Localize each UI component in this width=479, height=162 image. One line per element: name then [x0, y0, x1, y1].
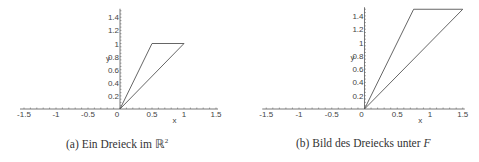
- triangle-plot-a: -1.5-1-0.500.511.50.20.40.60.811.21.4xy: [0, 0, 240, 130]
- plot-panel-a: -1.5-1-0.500.511.50.20.40.60.811.21.4xy: [0, 0, 240, 130]
- x-tick-label: 0.5: [146, 110, 158, 119]
- caption-b-text: (b) Bild des Dreiecks unter: [296, 137, 423, 149]
- caption-a-symbol: ℝ: [155, 138, 165, 150]
- x-tick-label: -0.5: [325, 110, 339, 119]
- x-tick-label: -1.5: [17, 110, 31, 119]
- x-tick-label: 1: [182, 110, 187, 119]
- y-tick-label: 0.6: [352, 65, 364, 74]
- caption-a: (a) Ein Dreieck im ℝ2: [66, 137, 168, 151]
- y-tick-label: 1.4: [352, 12, 364, 21]
- caption-a-superscript: 2: [165, 137, 169, 145]
- y-tick-label: 1.2: [108, 26, 120, 35]
- caption-b: (b) Bild des Dreiecks unter F: [296, 137, 430, 149]
- y-tick-label: 1.4: [108, 13, 120, 22]
- x-tick-label: 0: [115, 110, 120, 119]
- plot-panel-b: -1.5-1-0.500.511.50.20.40.60.811.21.4xy: [240, 0, 479, 130]
- x-axis-title: x: [172, 116, 176, 125]
- y-tick-label: 1: [115, 40, 120, 49]
- x-axis-title: x: [418, 116, 422, 125]
- x-tick-label: -1.5: [259, 110, 273, 119]
- triangle-outline: [365, 9, 463, 109]
- caption-b-symbol: F: [423, 137, 430, 149]
- x-tick-label: -1: [295, 110, 303, 119]
- y-axis-title: y: [351, 53, 355, 62]
- y-tick-label: 0.4: [108, 79, 120, 88]
- x-tick-label: 0: [359, 110, 364, 119]
- triangle-outline: [120, 44, 184, 110]
- y-tick-label: 0.4: [352, 78, 364, 87]
- y-tick-label: 1.2: [352, 25, 364, 34]
- x-tick-label: 0.5: [392, 110, 404, 119]
- x-tick-label: -0.5: [81, 110, 95, 119]
- triangle-plot-b: -1.5-1-0.500.511.50.20.40.60.811.21.4xy: [240, 0, 479, 130]
- y-tick-label: 0.2: [108, 92, 120, 101]
- y-tick-label: 0.2: [352, 92, 364, 101]
- x-tick-label: 1.5: [457, 110, 469, 119]
- y-tick-label: 1: [359, 39, 364, 48]
- x-tick-label: -1: [52, 110, 60, 119]
- y-tick-label: 0.6: [108, 66, 120, 75]
- y-axis-title: y: [106, 54, 110, 63]
- x-tick-label: 1: [428, 110, 433, 119]
- caption-a-text: (a) Ein Dreieck im: [66, 138, 155, 150]
- x-tick-label: 1.5: [210, 110, 222, 119]
